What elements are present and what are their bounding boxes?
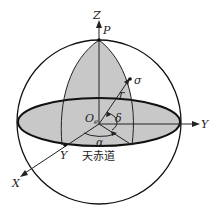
star-label: σ: [134, 74, 142, 87]
x-axis-label: X: [11, 177, 21, 190]
radius-label: r: [119, 88, 125, 101]
celestial-sphere-diagram: Z P σ r Oe δ α Y Y X 天赤道: [0, 0, 214, 214]
pole-point: [97, 38, 101, 42]
y-arrow-icon: [192, 121, 200, 127]
declination-label: δ: [115, 112, 122, 125]
y-axis-label: Y: [201, 118, 210, 131]
vernal-equinox-point: [63, 143, 67, 147]
vernal-point-label: Y: [60, 149, 69, 162]
z-axis-label: Z: [92, 9, 101, 22]
x-arrow-icon: [20, 170, 28, 177]
star-point: [128, 77, 132, 81]
right-ascension-label: α: [96, 136, 104, 149]
equator-label: 天赤道: [82, 149, 115, 163]
pole-label: P: [102, 24, 111, 37]
